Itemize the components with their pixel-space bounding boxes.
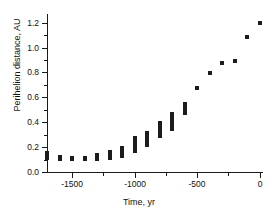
y-tick-minor	[44, 35, 47, 36]
x-tick-minor	[166, 173, 167, 176]
data-bar	[45, 151, 49, 160]
data-bar	[95, 153, 99, 160]
y-tick	[42, 48, 47, 49]
data-point	[258, 21, 262, 25]
data-point	[220, 61, 224, 65]
data-bar	[120, 146, 124, 158]
plot-area	[47, 14, 262, 172]
y-tick-label: 0.2	[0, 143, 39, 151]
x-tick-label: 0	[240, 180, 278, 189]
y-tick-label: 0.0	[0, 168, 39, 176]
data-bar	[183, 102, 187, 114]
y-tick-minor	[44, 135, 47, 136]
data-bar	[158, 121, 162, 138]
y-tick-minor	[44, 110, 47, 111]
data-point	[245, 35, 249, 39]
data-point	[208, 71, 212, 75]
data-bar	[108, 150, 112, 160]
data-bar	[133, 136, 137, 153]
x-tick-label: -1500	[52, 180, 92, 189]
x-tick-label: -1000	[115, 180, 155, 189]
y-axis-line	[47, 14, 48, 173]
y-tick	[42, 172, 47, 173]
y-tick-minor	[44, 60, 47, 61]
data-bar	[170, 112, 174, 131]
x-axis-title: Time, yr	[0, 197, 278, 207]
x-tick-label: -500	[177, 180, 217, 189]
y-tick-minor	[44, 85, 47, 86]
data-point	[233, 59, 237, 63]
chart-figure: 0.00.20.40.60.81.01.2 -1500-1000-5000 Pe…	[0, 0, 278, 218]
y-tick	[42, 147, 47, 148]
y-tick-minor	[44, 160, 47, 161]
x-tick	[260, 173, 261, 178]
y-axis-title: Perihelion distance, AU	[12, 0, 22, 130]
data-bar	[58, 155, 62, 161]
data-point	[83, 156, 87, 161]
data-bar	[145, 131, 149, 147]
y-tick	[42, 23, 47, 24]
y-tick	[42, 97, 47, 98]
data-point	[195, 86, 199, 90]
x-tick	[135, 173, 136, 178]
data-point	[70, 156, 74, 161]
x-tick-minor	[228, 173, 229, 176]
y-tick	[42, 122, 47, 123]
y-tick	[42, 72, 47, 73]
x-tick	[72, 173, 73, 178]
x-tick-minor	[103, 173, 104, 176]
x-axis-line	[47, 172, 263, 173]
x-tick	[197, 173, 198, 178]
